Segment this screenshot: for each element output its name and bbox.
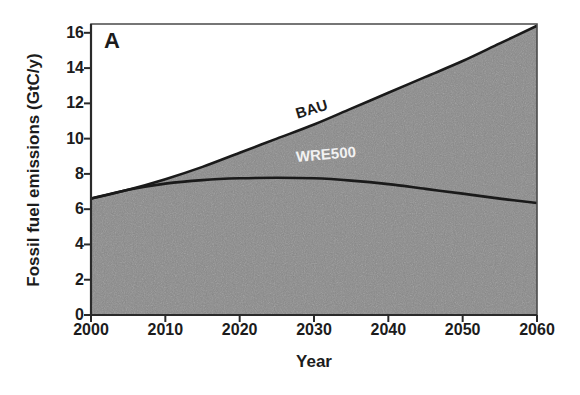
x-tick-label: 2060 bbox=[502, 322, 572, 338]
x-axis-title: Year bbox=[91, 352, 537, 372]
figure-panel-a: Fossil fuel emissions (GtC/y) 0246810121… bbox=[0, 0, 580, 395]
x-tick-label: 2000 bbox=[56, 322, 126, 338]
panel-letter: A bbox=[104, 28, 120, 54]
area-bau-texture bbox=[91, 26, 537, 315]
x-tick-label: 2030 bbox=[279, 322, 349, 338]
x-tick-label: 2020 bbox=[205, 322, 275, 338]
x-tick-label: 2010 bbox=[130, 322, 200, 338]
x-axis-tick-labels: 2000201020202030204020502060 bbox=[0, 322, 580, 348]
x-tick-label: 2050 bbox=[428, 322, 498, 338]
x-tick-label: 2040 bbox=[353, 322, 423, 338]
